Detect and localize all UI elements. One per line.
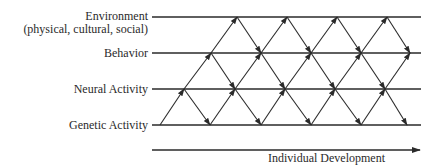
genetic-activity-label: Genetic Activity [69, 119, 148, 131]
environment-label: Environment [85, 10, 148, 22]
environment-sublabel: (physical, cultural, social) [23, 23, 148, 35]
influence-arrows [160, 17, 410, 125]
development-axis-label: Individual Development [265, 151, 388, 166]
behavior-label: Behavior [104, 47, 148, 59]
neural-activity-label: Neural Activity [74, 83, 148, 95]
